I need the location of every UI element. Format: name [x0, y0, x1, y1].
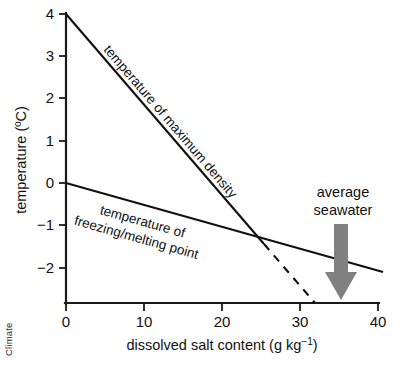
y-tick-label-neg2: −2: [37, 259, 54, 276]
y-tick-label-1: 1: [46, 132, 54, 149]
series-max-density-line: [66, 14, 264, 244]
x-axis-title: dissolved salt content (g kg−1): [126, 336, 317, 353]
y-axis-tick-labels: 4 3 2 1 0 −1 −2: [37, 5, 54, 276]
y-tick-label-2: 2: [46, 89, 54, 106]
y-axis-title: temperature (ºC): [13, 106, 29, 214]
x-tick-label-10: 10: [136, 313, 153, 330]
y-tick-label-3: 3: [46, 47, 54, 64]
x-axis-title-superscript: −1: [301, 336, 313, 347]
down-arrow-icon: [325, 224, 357, 300]
series-max-density-dashed: [264, 244, 315, 303]
y-tick-label-0: 0: [46, 174, 54, 191]
x-tick-label-40: 40: [370, 313, 387, 330]
series-label-max-density: temperature of maximum density: [101, 42, 241, 201]
y-tick-label-4: 4: [46, 5, 54, 22]
salinity-temperature-chart: 4 3 2 1 0 −1 −2 temperature (ºC) 0 10 20…: [0, 0, 400, 365]
x-axis-title-close: ): [313, 337, 318, 353]
series-label-freezing-point: temperature of freezing/melting point: [73, 196, 205, 262]
x-tick-label-30: 30: [292, 313, 309, 330]
x-tick-label-20: 20: [214, 313, 231, 330]
annotation-average-seawater: average seawater: [314, 184, 373, 300]
y-tick-label-neg1: −1: [37, 216, 54, 233]
side-caption-climate: Climate: [2, 296, 16, 356]
figure-container: Climate 4 3 2 1 0 −1 −2 temperature (ºC): [0, 0, 400, 365]
x-tick-label-0: 0: [62, 313, 70, 330]
x-axis-ticks: [66, 303, 378, 311]
x-axis-title-main: dissolved salt content (g kg: [126, 337, 301, 353]
annotation-label-line2: seawater: [314, 202, 373, 218]
x-axis-tick-labels: 0 10 20 30 40: [62, 313, 387, 330]
annotation-label-line1: average: [317, 184, 369, 200]
